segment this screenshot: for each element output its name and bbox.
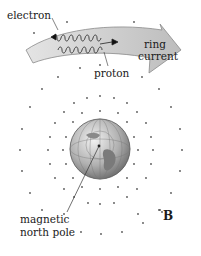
electron-leader: [52, 18, 58, 30]
electron-label: electron: [7, 10, 51, 21]
current-label: current: [138, 51, 178, 62]
earth-globe: [70, 119, 130, 179]
ring-label: ring: [144, 39, 166, 50]
north-pole-label: north pole: [20, 227, 75, 238]
magnetic-label: magnetic: [20, 214, 69, 225]
proton-leader: [104, 52, 108, 66]
proton-label: proton: [94, 68, 129, 79]
magnetic-field-label: B: [163, 211, 173, 222]
